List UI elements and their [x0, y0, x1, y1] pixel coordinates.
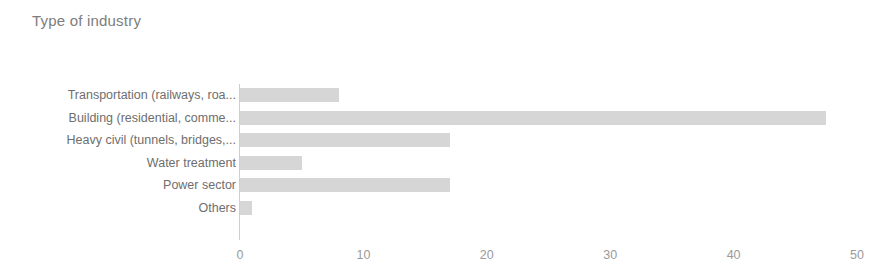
bar-category-label: Transportation (railways, roa...	[6, 88, 236, 102]
bar-category-label: Heavy civil (tunnels, bridges,...	[6, 133, 236, 147]
bar	[240, 156, 302, 170]
bar-category-label: Power sector	[6, 178, 236, 192]
chart-container: Type of industry Transportation (railway…	[0, 0, 875, 275]
bar-category-label: Others	[6, 201, 236, 215]
x-tick-label: 20	[467, 248, 507, 262]
bar	[240, 111, 826, 125]
bar-row: Power sector	[0, 175, 875, 197]
bar-row: Building (residential, comme...	[0, 108, 875, 130]
bar-row: Water treatment	[0, 153, 875, 175]
bar	[240, 178, 450, 192]
bar-track	[240, 178, 450, 192]
bar	[240, 133, 450, 147]
x-tick-label: 40	[714, 248, 754, 262]
bar-track	[240, 88, 339, 102]
plot-area: Transportation (railways, roa...Building…	[0, 0, 875, 275]
bar-row: Others	[0, 198, 875, 220]
bar-track	[240, 156, 302, 170]
x-tick-label: 10	[343, 248, 383, 262]
bar	[240, 201, 252, 215]
x-tick-label: 0	[220, 248, 260, 262]
bar-track	[240, 201, 252, 215]
x-tick-label: 50	[837, 248, 875, 262]
bar	[240, 88, 339, 102]
x-tick-label: 30	[590, 248, 630, 262]
bar-track	[240, 111, 826, 125]
bar-category-label: Building (residential, comme...	[6, 111, 236, 125]
bar-row: Transportation (railways, roa...	[0, 85, 875, 107]
bar-row: Heavy civil (tunnels, bridges,...	[0, 130, 875, 152]
bar-track	[240, 133, 450, 147]
bar-category-label: Water treatment	[6, 156, 236, 170]
